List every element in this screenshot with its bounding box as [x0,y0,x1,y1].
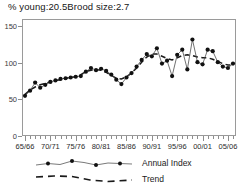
data-point [226,66,230,70]
x-tick-mark [152,136,153,141]
data-point [28,89,32,93]
data-point [200,62,204,66]
x-tick-mark [66,136,67,139]
data-point [165,59,169,63]
x-tick-mark [81,136,82,139]
x-tick-mark [228,136,229,141]
x-tick-mark [208,136,209,139]
brood-size-label: Brood size: [67,1,116,12]
x-tick-mark [187,136,188,139]
page-title: % young:20.5Brood size:2.7 [8,1,129,12]
x-tick-mark [25,136,26,141]
trend-line [25,54,233,94]
x-tick-mark [157,136,158,139]
x-tick-mark [203,136,204,141]
x-tick-mark [147,136,148,139]
x-tick-label: 75/76 [66,142,85,151]
chart-canvas [22,19,236,136]
data-point [195,60,199,64]
x-tick-mark [50,136,51,141]
x-tick-mark [177,136,178,141]
x-tick-label: 65/66 [16,142,35,151]
x-tick-mark [172,136,173,139]
x-tick-label: 00/01 [193,142,212,151]
data-point [63,76,67,80]
x-axis-ticks [22,136,236,141]
y-tick-label: 50 [0,95,17,104]
data-point [114,78,118,82]
legend-label-annual-index: Annual Index [142,158,192,168]
legend-item-annual-index: Annual Index [34,156,234,171]
x-tick-mark [76,136,77,141]
y-tick-label: 150 [0,22,17,31]
data-point [53,78,57,82]
x-tick-mark [86,136,87,139]
data-point [23,94,27,98]
x-tick-mark [213,136,214,139]
x-tick-mark [162,136,163,139]
data-point [206,48,210,52]
data-point [150,54,154,58]
legend-item-trend: Trend [34,172,234,187]
chart-legend: Annual Index Trend [34,156,234,190]
legend-swatch-trend [34,172,134,187]
data-point [129,71,133,75]
data-point [109,72,113,76]
data-point [58,77,62,81]
x-tick-mark [30,136,31,139]
x-tick-mark [35,136,36,139]
x-tick-mark [106,136,107,139]
x-tick-mark [61,136,62,139]
chart-page: % young:20.5Brood size:2.7 050100150 65/… [0,0,249,192]
percent-young-value: 20.5 [48,1,67,12]
data-point [180,48,184,52]
data-point [124,75,128,79]
data-point [216,60,220,64]
percent-young-label: % young: [8,1,48,12]
x-tick-mark [126,136,127,141]
data-point [185,67,189,71]
data-point [94,68,98,72]
x-tick-label: 05/06 [219,142,238,151]
x-tick-label: 85/86 [117,142,136,151]
data-point [84,70,88,74]
x-tick-mark [40,136,41,139]
x-tick-mark [223,136,224,139]
legend-swatch-annual-index [34,156,134,171]
x-tick-mark [45,136,46,139]
data-point [74,75,78,79]
annual-index-line [25,39,233,95]
brood-size-value: 2.7 [116,1,130,12]
y-tick-label: 100 [0,59,17,68]
data-point [175,53,179,57]
data-point [135,64,139,68]
x-tick-mark [91,136,92,139]
data-point [160,62,164,66]
x-tick-mark [233,136,234,139]
data-point [43,83,47,87]
legend-label-trend: Trend [142,174,164,184]
data-point [190,37,194,41]
x-tick-mark [121,136,122,139]
data-point [119,82,123,86]
x-tick-mark [167,136,168,139]
x-tick-mark [132,136,133,139]
x-tick-mark [142,136,143,139]
data-point [170,74,174,78]
x-tick-mark [111,136,112,139]
data-point [155,46,159,50]
x-tick-label: 90/91 [142,142,161,151]
x-tick-mark [218,136,219,139]
x-tick-mark [55,136,56,139]
x-tick-mark [182,136,183,139]
data-point [145,52,149,56]
data-point [79,74,83,78]
data-point [33,81,37,85]
x-tick-label: 70/71 [41,142,60,151]
x-tick-mark [197,136,198,139]
x-tick-mark [137,136,138,139]
x-tick-mark [101,136,102,141]
data-point [48,80,52,84]
data-point [104,69,108,73]
x-tick-mark [96,136,97,139]
